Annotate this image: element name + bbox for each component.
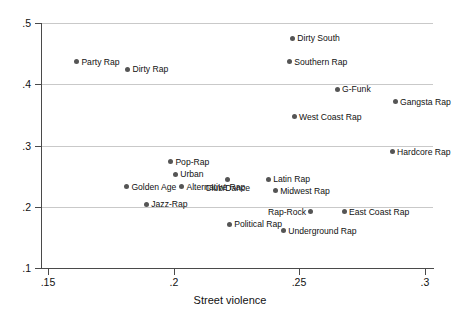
y-axis-tick xyxy=(35,23,41,24)
data-point-label: Latin Rap xyxy=(273,175,310,184)
data-point-label: Pop-Rap xyxy=(175,157,209,166)
data-point-marker xyxy=(290,36,295,41)
y-axis-tick xyxy=(35,84,41,85)
data-point-label: Rap-Rock xyxy=(268,207,306,216)
x-axis-tick-label: .2 xyxy=(170,277,179,288)
data-point-label: West Coast Rap xyxy=(299,112,361,121)
data-point-label: Urban xyxy=(180,170,203,179)
y-axis-tick-label: .2 xyxy=(22,202,31,213)
data-point-label: G-Funk xyxy=(342,85,371,94)
y-axis-tick xyxy=(35,146,41,147)
data-point-label: Hardcore Rap xyxy=(397,147,451,156)
x-axis-line xyxy=(41,268,434,269)
x-axis-tick xyxy=(48,269,49,275)
y-axis-tick xyxy=(35,207,41,208)
data-point-label: Political Rap xyxy=(234,220,282,229)
x-axis-tick xyxy=(425,269,426,275)
y-axis-tick-label: .4 xyxy=(22,79,31,90)
y-axis-tick-label: .1 xyxy=(22,263,31,274)
y-axis-tick xyxy=(35,268,41,269)
x-axis-tick-label: .25 xyxy=(292,277,307,288)
y-axis-line xyxy=(41,23,42,269)
x-axis-tick-label: .3 xyxy=(421,277,430,288)
gridline-y xyxy=(41,146,433,147)
data-point-label: Alternative Rap xyxy=(186,182,245,191)
data-point-marker xyxy=(227,222,232,227)
x-axis-tick-label: .15 xyxy=(41,277,56,288)
data-point-marker xyxy=(266,177,271,182)
data-point-marker xyxy=(335,87,340,92)
data-point-label: Dirty South xyxy=(297,34,340,43)
y-axis-tick-label: .5 xyxy=(22,18,31,29)
x-axis-tick xyxy=(299,269,300,275)
data-point-label: Dirty Rap xyxy=(132,65,168,74)
data-point-marker xyxy=(173,172,178,177)
data-point-label: Golden Age xyxy=(131,182,176,191)
scatter-chart: Swagger Street violence .1.2.3.4.5.15.2.… xyxy=(0,0,460,319)
data-point-label: Midwest Rap xyxy=(280,186,330,195)
data-point-label: Party Rap xyxy=(81,57,119,66)
x-axis-tick xyxy=(174,269,175,275)
data-point-label: Underground Rap xyxy=(288,226,356,235)
data-point-label: Gangsta Rap xyxy=(400,97,451,106)
gridline-y xyxy=(41,23,433,24)
data-point-label: East Coast Rap xyxy=(349,207,409,216)
data-point-label: Jazz-Rap xyxy=(151,200,187,209)
gridline-y xyxy=(41,84,433,85)
x-axis-label: Street violence xyxy=(0,295,460,306)
data-point-label: Southern Rap xyxy=(294,57,347,66)
y-axis-tick-label: .3 xyxy=(22,141,31,152)
